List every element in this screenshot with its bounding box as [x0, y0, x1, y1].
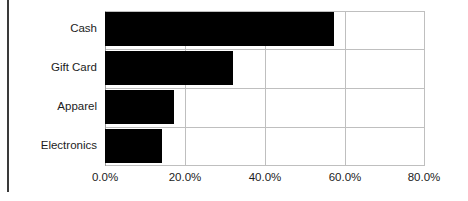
- bar-electronics: [105, 129, 162, 163]
- bar-gift-card: [105, 51, 233, 85]
- bar-cash: [105, 12, 334, 46]
- xtick-label-40: 40.0%: [230, 171, 300, 183]
- plot-area: [105, 11, 425, 166]
- xtick-label-0: 0.0%: [70, 171, 140, 183]
- category-label-gift-card: Gift Card: [0, 61, 97, 73]
- gridline-vertical-60: [345, 11, 346, 166]
- gridline-vertical-80: [424, 11, 425, 166]
- xtick-label-80: 80.0%: [389, 171, 459, 183]
- xtick-label-60: 60.0%: [310, 171, 380, 183]
- category-label-apparel: Apparel: [0, 100, 97, 112]
- category-label-cash: Cash: [0, 22, 97, 34]
- category-label-electronics: Electronics: [0, 139, 97, 151]
- xtick-label-20: 20.0%: [150, 171, 220, 183]
- bar-chart: Cash Gift Card Apparel Electronics 0.0% …: [0, 0, 468, 201]
- bar-apparel: [105, 90, 174, 124]
